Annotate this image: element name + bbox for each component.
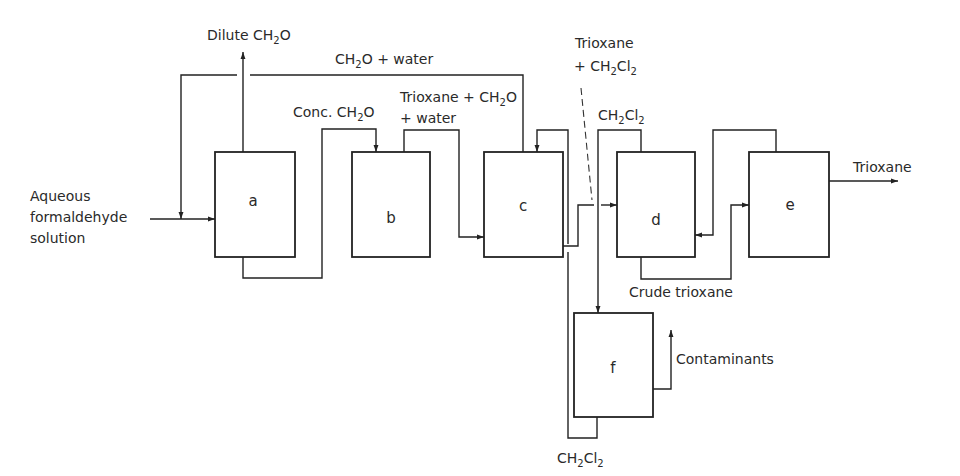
unit-f: f — [574, 313, 653, 417]
unit-a-label: a — [248, 192, 257, 210]
unit-b-label: b — [386, 209, 396, 227]
dilute-ch2o-label: Dilute CH2O — [207, 27, 291, 46]
ch2cl2-bottom-label: CH2Cl2 — [557, 450, 604, 469]
process-flow-diagram: a b c d e f Aqueous formaldehyde solutio… — [0, 0, 960, 476]
unit-e-label: e — [785, 196, 794, 214]
ch2cl2-top-label: CH2Cl2 — [598, 107, 645, 126]
unit-d-label: d — [651, 211, 661, 229]
trioxane-ch2cl2-label-line2: + CH2Cl2 — [574, 58, 637, 77]
dilute-ch2o-stream: Dilute CH2O — [207, 27, 291, 152]
trioxane-ch2o-water-label-line2: + water — [400, 110, 456, 126]
unit-e: e — [749, 152, 829, 257]
feed-label-line3: solution — [30, 230, 85, 246]
contaminants-stream: Contaminants — [653, 330, 774, 389]
conc-ch2o-label: Conc. CH2O — [293, 104, 375, 123]
trioxane-product-stream: Trioxane — [829, 159, 912, 181]
trioxane-product-label: Trioxane — [852, 159, 912, 175]
unit-c-label: c — [519, 197, 527, 215]
crude-trioxane-label: Crude trioxane — [629, 284, 733, 300]
unit-f-label: f — [610, 359, 616, 377]
feed-label-line1: Aqueous — [30, 188, 90, 204]
contaminants-label: Contaminants — [676, 351, 774, 367]
unit-b: b — [352, 152, 430, 257]
trioxane-ch2cl2-label-line1: Trioxane — [574, 35, 634, 51]
ch2cl2-f-bottom-stream: CH2Cl2 — [557, 417, 604, 469]
trioxane-ch2o-water-label-line1: Trioxane + CH2O — [399, 89, 517, 108]
ch2o-water-label: CH2O + water — [335, 51, 433, 70]
feed-stream: Aqueous formaldehyde solution — [30, 188, 215, 246]
unit-a: a — [215, 152, 295, 257]
feed-label-line2: formaldehyde — [30, 209, 127, 225]
unit-c: c — [484, 152, 563, 257]
unit-d: d — [617, 152, 695, 257]
